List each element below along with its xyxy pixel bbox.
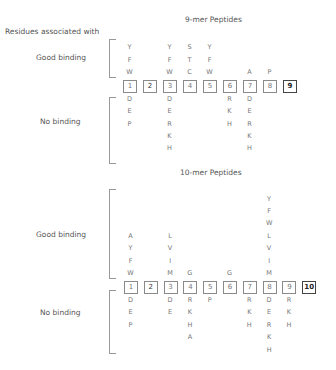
good-residue: Y bbox=[263, 195, 276, 203]
good-residue: C bbox=[183, 68, 196, 76]
no-binding-residue: D bbox=[243, 95, 256, 103]
good-residue: T bbox=[183, 56, 196, 64]
no-binding-residue: E bbox=[123, 107, 136, 115]
good-residue: F bbox=[203, 56, 216, 64]
no-binding-residue: K bbox=[163, 132, 176, 140]
no-binding-residue: D bbox=[123, 95, 136, 103]
ten-mer-good-bracket bbox=[109, 189, 116, 279]
ten-mer-position-box: 9 bbox=[282, 281, 296, 294]
ten-mer-position-box: 1 bbox=[124, 281, 138, 294]
no-binding-residue: K bbox=[243, 308, 256, 316]
no-binding-residue: K bbox=[183, 308, 196, 316]
no-binding-residue: E bbox=[164, 308, 177, 316]
ten-mer-no-binding-label: No binding bbox=[40, 308, 81, 317]
nine-mer-position-box: 6 bbox=[223, 80, 237, 93]
no-binding-residue: H bbox=[243, 144, 256, 152]
good-residue: M bbox=[263, 269, 276, 277]
residues-associated-label: Residues associated with bbox=[5, 27, 99, 36]
no-binding-residue: A bbox=[183, 333, 196, 341]
nine-mer-position-box: 4 bbox=[183, 80, 197, 93]
good-residue: V bbox=[263, 244, 276, 252]
good-residue: W bbox=[124, 269, 137, 277]
nine-mer-position-box: 5 bbox=[203, 80, 217, 93]
no-binding-residue: P bbox=[123, 120, 136, 128]
no-binding-residue: D bbox=[124, 296, 137, 304]
good-residue: P bbox=[263, 68, 276, 76]
nine-mer-position-box: 8 bbox=[263, 80, 277, 93]
no-binding-residue: H bbox=[163, 144, 176, 152]
no-binding-residue: R bbox=[223, 95, 236, 103]
no-binding-residue: R bbox=[263, 321, 276, 329]
no-binding-residue: K bbox=[282, 308, 295, 316]
nine-mer-no-bracket bbox=[109, 97, 116, 164]
good-residue: Y bbox=[123, 43, 136, 51]
no-binding-residue: E bbox=[163, 107, 176, 115]
nine-mer-position-box: 3 bbox=[163, 80, 177, 93]
no-binding-residue: R bbox=[183, 296, 196, 304]
good-residue: I bbox=[164, 257, 177, 265]
nine-mer-title: 9-mer Peptides bbox=[185, 15, 242, 24]
good-residue: V bbox=[164, 244, 177, 252]
good-residue: W bbox=[263, 219, 276, 227]
no-binding-residue: D bbox=[164, 296, 177, 304]
good-residue: A bbox=[243, 68, 256, 76]
good-residue: Y bbox=[124, 244, 137, 252]
no-binding-residue: K bbox=[223, 107, 236, 115]
nine-mer-position-box: 1 bbox=[123, 80, 137, 93]
ten-mer-position-box: 5 bbox=[203, 281, 217, 294]
no-binding-residue: H bbox=[223, 120, 236, 128]
no-binding-residue: K bbox=[263, 333, 276, 341]
good-residue: L bbox=[263, 232, 276, 240]
ten-mer-good-binding-label: Good binding bbox=[36, 230, 86, 239]
nine-mer-position-box: 2 bbox=[143, 80, 157, 93]
no-binding-residue: E bbox=[124, 308, 137, 316]
nine-mer-position-box: 9 bbox=[283, 80, 297, 93]
good-residue: I bbox=[263, 257, 276, 265]
no-binding-residue: D bbox=[163, 95, 176, 103]
ten-mer-no-bracket bbox=[109, 290, 116, 354]
good-residue: F bbox=[163, 56, 176, 64]
good-residue: L bbox=[164, 232, 177, 240]
good-residue: M bbox=[164, 269, 177, 277]
good-residue: W bbox=[163, 68, 176, 76]
no-binding-residue: R bbox=[243, 296, 256, 304]
good-residue: W bbox=[203, 68, 216, 76]
no-binding-residue: H bbox=[263, 346, 276, 354]
ten-mer-position-box: 3 bbox=[164, 281, 178, 294]
nine-mer-good-bracket bbox=[109, 39, 116, 78]
no-binding-residue: K bbox=[243, 132, 256, 140]
ten-mer-position-box: 2 bbox=[144, 281, 158, 294]
no-binding-residue: P bbox=[124, 321, 137, 329]
good-residue: S bbox=[183, 43, 196, 51]
nine-mer-good-binding-label: Good binding bbox=[36, 53, 86, 62]
no-binding-residue: H bbox=[282, 321, 295, 329]
good-residue: F bbox=[263, 207, 276, 215]
ten-mer-title: 10-mer Peptides bbox=[180, 168, 242, 177]
ten-mer-position-box: 7 bbox=[243, 281, 257, 294]
no-binding-residue: R bbox=[282, 296, 295, 304]
good-residue: W bbox=[123, 68, 136, 76]
no-binding-residue: R bbox=[163, 120, 176, 128]
ten-mer-position-box: 6 bbox=[223, 281, 237, 294]
good-residue: Y bbox=[203, 43, 216, 51]
good-residue: A bbox=[124, 232, 137, 240]
ten-mer-position-box: 8 bbox=[263, 281, 277, 294]
no-binding-residue: R bbox=[243, 120, 256, 128]
peptide-binding-diagram: Residues associated with 9-mer Peptides … bbox=[0, 0, 336, 370]
good-residue: Y bbox=[163, 43, 176, 51]
ten-mer-position-box: 10 bbox=[302, 281, 316, 294]
no-binding-residue: H bbox=[183, 321, 196, 329]
good-residue: F bbox=[123, 56, 136, 64]
good-residue: G bbox=[183, 269, 196, 277]
ten-mer-position-box: 4 bbox=[183, 281, 197, 294]
nine-mer-position-box: 7 bbox=[243, 80, 257, 93]
no-binding-residue: H bbox=[243, 321, 256, 329]
good-residue: G bbox=[223, 269, 236, 277]
no-binding-residue: E bbox=[243, 107, 256, 115]
no-binding-residue: P bbox=[203, 296, 216, 304]
no-binding-residue: D bbox=[263, 296, 276, 304]
no-binding-residue: E bbox=[263, 308, 276, 316]
good-residue: F bbox=[124, 257, 137, 265]
nine-mer-no-binding-label: No binding bbox=[40, 117, 81, 126]
